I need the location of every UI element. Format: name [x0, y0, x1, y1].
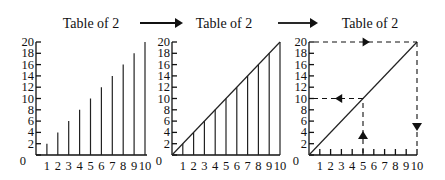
y-tick-label: 0 [156, 154, 162, 168]
x-tick-label: 5 [87, 159, 93, 173]
flow-arrow-right-icon [175, 18, 183, 28]
chart-panel-2: Table of 20246810121416182012345678910 [156, 16, 287, 173]
y-tick-label: 0 [20, 154, 26, 168]
x-tick-label: 1 [317, 159, 323, 173]
y-tick-label: 0 [293, 154, 299, 168]
chart-title: Table of 2 [196, 16, 253, 31]
x-tick-label: 8 [255, 159, 261, 173]
diagram-canvas: Table of 20246810121416182012345678910Ta… [0, 0, 445, 180]
x-tick-label: 7 [109, 159, 115, 173]
x-tick-label: 2 [190, 159, 196, 173]
x-tick-label: 6 [371, 159, 377, 173]
x-tick-label: 3 [201, 159, 207, 173]
arrow-up-icon [358, 131, 368, 139]
x-tick-label: 4 [349, 159, 356, 173]
x-tick-label: 6 [98, 159, 104, 173]
x-tick-label: 9 [131, 159, 137, 173]
x-tick-label: 10 [411, 159, 424, 173]
x-tick-label: 1 [180, 159, 186, 173]
arrow-down-icon [412, 123, 422, 131]
x-tick-label: 8 [392, 159, 398, 173]
chart-title: Table of 2 [63, 16, 120, 31]
flow-arrow-right-icon [310, 18, 318, 28]
y-tick-label: 20 [295, 35, 308, 49]
x-tick-label: 9 [266, 159, 272, 173]
diagram-stage: Table of 20246810121416182012345678910Ta… [0, 0, 445, 180]
x-tick-label: 2 [55, 159, 61, 173]
x-tick-label: 6 [234, 159, 240, 173]
chart-panel-3: Table of 20246810121416182012345678910 [293, 16, 424, 173]
x-tick-label: 10 [139, 159, 152, 173]
x-tick-label: 9 [403, 159, 409, 173]
x-tick-label: 4 [76, 159, 83, 173]
x-tick-label: 3 [338, 159, 344, 173]
chart-panel-1: Table of 20246810121416182012345678910 [20, 16, 152, 173]
arrow-right-icon [363, 38, 370, 47]
x-tick-label: 7 [244, 159, 250, 173]
x-tick-label: 3 [66, 159, 72, 173]
chart-title: Table of 2 [342, 16, 399, 31]
x-tick-label: 2 [327, 159, 333, 173]
x-tick-label: 7 [381, 159, 387, 173]
x-tick-label: 4 [212, 159, 219, 173]
x-tick-label: 1 [44, 159, 50, 173]
arrow-left-icon [335, 94, 342, 103]
x-tick-label: 5 [223, 159, 229, 173]
x-tick-label: 5 [360, 159, 366, 173]
x-tick-label: 10 [274, 159, 287, 173]
y-tick-label: 20 [22, 35, 35, 49]
y-tick-label: 20 [158, 35, 171, 49]
x-tick-label: 8 [120, 159, 126, 173]
